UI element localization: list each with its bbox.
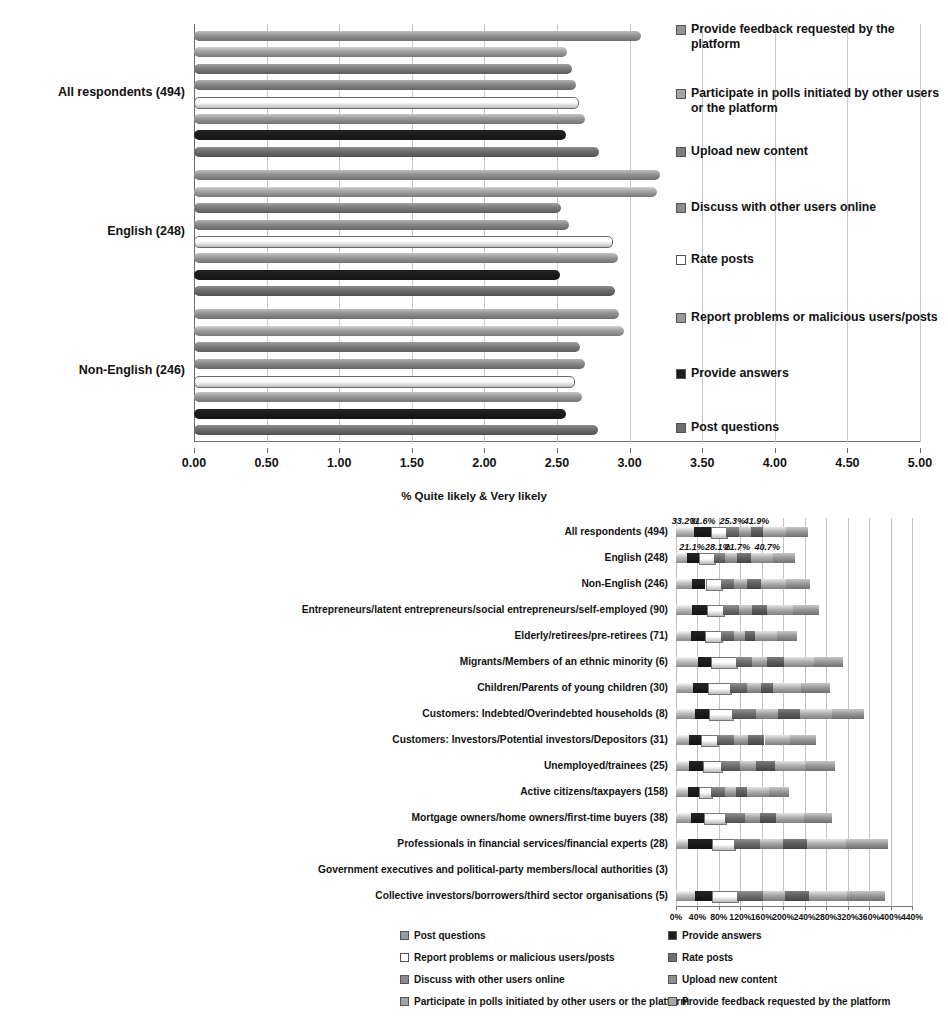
x-tick-mark [697,906,698,910]
legend-item[interactable]: Provide answers [668,930,761,941]
bar-segment-provide-answers [695,709,708,719]
bar-segment-post-questions [676,683,693,693]
x-tick-label: 0.00 [182,456,206,470]
legend-item[interactable]: Provide answers [676,366,944,381]
bar-segment-upload-new-content [760,813,776,823]
bar-row: Non-English (246) [0,570,948,596]
bar-report-problems-or-malicious-users-posts [194,114,585,124]
bar-segment-rate-posts [711,787,725,797]
bar-segment-discuss-with-other-users-online [725,787,736,797]
bar-segment-report-problems-or-malicious-users-posts [712,839,737,851]
bar-segment-provide-answers [698,657,711,667]
bar-upload-new-content [194,64,572,74]
bar-segment-provide-answers [688,839,712,849]
bar-row: Professionals in financial services/fina… [0,830,948,856]
bar-segment-upload-new-content [737,553,751,563]
legend-swatch-icon [668,997,677,1006]
legend-item[interactable]: Rate posts [668,952,733,963]
bar-segment-post-questions [676,761,689,771]
bar-segment-provide-feedback-requested-by-the-platfo [786,579,810,589]
bar-segment-report-problems-or-malicious-users-posts [704,813,727,825]
bar-segment-discuss-with-other-users-online [747,683,761,693]
bar-segment-rate-posts [717,735,735,745]
legend-swatch-icon [676,255,686,265]
legend-label: Post questions [691,420,779,435]
bar-segment-participate-in-polls-initiated-by-other- [763,527,785,537]
bar-segment-rate-posts [721,631,734,641]
x-tick-mark [194,448,195,453]
x-tick-mark [762,906,763,910]
x-tick-label: 280% [815,912,837,922]
category-label: Active citizens/taxpayers (158) [8,786,668,797]
bar-segment-provide-feedback-requested-by-the-platfo [786,527,809,537]
x-tick-label: 2.50 [545,456,569,470]
bar-segment-provide-answers [689,761,703,771]
legend-item[interactable]: Discuss with other users online [400,974,565,985]
legend-item[interactable]: Post questions [676,420,944,435]
legend-item[interactable]: Provide feedback requested by the platfo… [668,996,890,1007]
legend-item[interactable]: Participate in polls initiated by other … [400,996,689,1007]
x-tick-mark [719,906,720,910]
bar-segment-upload-new-content [767,657,784,667]
category-label: Migrants/Members of an ethnic minority (… [8,656,668,667]
legend-swatch-icon [668,931,677,940]
bar-segment-upload-new-content [736,787,748,797]
category-label: Non-English (246) [8,578,668,589]
bar-post-questions [194,286,615,296]
bar-segment-provide-feedback-requested-by-the-platfo [805,761,835,771]
legend-label: Rate posts [682,952,733,963]
legend-item[interactable]: Participate in polls initiated by other … [676,86,944,116]
stacked-bar [676,553,912,563]
legend-swatch-icon [400,975,409,984]
stacked-bar [676,839,912,849]
bar-segment-rate-posts [723,605,739,615]
legend-item[interactable]: Report problems or malicious users/posts [400,952,615,963]
x-tick-label: 0.50 [254,456,278,470]
bar-segment-upload-new-content [778,709,799,719]
x-tick-mark [847,448,848,453]
x-tick-mark [484,448,485,453]
x-tick-mark [783,906,784,910]
legend-item[interactable]: Discuss with other users online [676,200,944,215]
legend-item[interactable]: Provide feedback requested by the platfo… [676,22,944,52]
bar-row: Unemployed/trainees (25) [0,752,948,778]
legend-item[interactable]: Post questions [400,930,486,941]
category-label: All respondents (494) [8,526,668,537]
bar-segment-post-questions [676,657,698,667]
bar-segment-post-questions [676,839,688,849]
stacked-bar [676,709,912,719]
bar-participate-in-polls-initiated-by-other- [194,47,567,57]
legend-label: Report problems or malicious users/posts [691,310,938,325]
bar-segment-rate-posts [732,709,756,719]
stacked-bar [676,657,912,667]
bar-segment-participate-in-polls-initiated-by-other- [765,735,791,745]
bar-segment-post-questions [676,553,687,563]
category-label: Government executives and political-part… [8,864,668,875]
x-tick-mark [920,448,921,453]
bar-segment-rate-posts [714,553,726,563]
bar-segment-post-questions [676,579,692,589]
bar-segment-upload-new-content [783,839,808,849]
data-label: 31.6% [690,516,716,526]
bar-provide-answers [194,270,560,280]
bar-segment-provide-feedback-requested-by-the-platfo [777,631,797,641]
bar-segment-provide-answers [687,553,698,563]
x-tick-mark [826,906,827,910]
bar-segment-rate-posts [730,683,747,693]
bar-participate-in-polls-initiated-by-other- [194,326,624,336]
category-label: Collective investors/borrowers/third sec… [8,890,668,901]
x-tick-label: 120% [729,912,751,922]
legend-item[interactable]: Rate posts [676,252,944,267]
legend-item[interactable]: Upload new content [676,144,944,159]
bar-segment-provide-answers [688,787,699,797]
bar-segment-report-problems-or-malicious-users-posts [709,709,735,721]
x-tick-mark [869,906,870,910]
bar-row: Entrepreneurs/latent entrepreneurs/socia… [0,596,948,622]
bar-segment-post-questions [676,709,695,719]
bar-segment-discuss-with-other-users-online [734,579,747,589]
stacked-bar [676,683,912,693]
bar-segment-upload-new-content [761,683,773,693]
legend-swatch-icon [676,203,686,213]
legend-item[interactable]: Report problems or malicious users/posts [676,310,944,325]
legend-item[interactable]: Upload new content [668,974,777,985]
